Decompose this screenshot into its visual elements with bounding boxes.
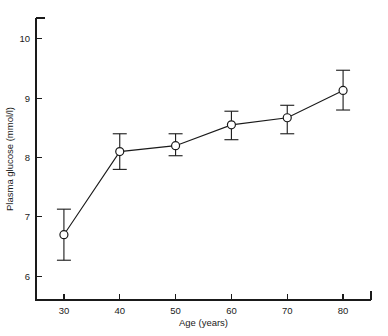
y-tick-label: 8 [25, 152, 30, 163]
chart-figure: 678910304050607080Age (years)Plasma gluc… [0, 0, 388, 336]
x-tick-label: 70 [282, 305, 293, 316]
data-point-marker [116, 148, 124, 156]
data-point-marker [283, 114, 291, 122]
x-tick-label: 30 [59, 305, 70, 316]
x-tick-label: 50 [170, 305, 181, 316]
data-point-marker [172, 142, 180, 150]
y-tick-label: 6 [25, 271, 30, 282]
data-series-line [64, 90, 343, 234]
data-point-marker [227, 121, 235, 129]
x-tick-label: 40 [114, 305, 125, 316]
x-tick-label: 80 [338, 305, 349, 316]
y-tick-label: 7 [25, 211, 30, 222]
y-axis-title: Plasma glucose (mmol/l) [4, 107, 15, 211]
x-tick-label: 60 [226, 305, 237, 316]
data-point-marker [60, 231, 68, 239]
data-point-marker [339, 86, 347, 94]
y-tick-label: 9 [25, 93, 30, 104]
y-tick-label: 10 [19, 33, 30, 44]
x-axis-title: Age (years) [179, 317, 228, 328]
plasma-glucose-line-chart: 678910304050607080Age (years)Plasma gluc… [0, 0, 388, 336]
axis-spine [36, 18, 371, 300]
